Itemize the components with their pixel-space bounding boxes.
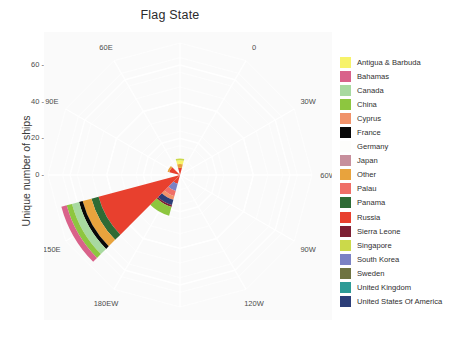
theta-tick-label: 90W: [300, 245, 315, 254]
polar-bar-segment[interactable]: [177, 164, 183, 168]
legend-item[interactable]: United Kingdom: [340, 281, 464, 295]
legend-label: Russia: [357, 212, 380, 223]
legend-label: Canada: [357, 85, 384, 96]
legend-swatch-icon: [340, 155, 351, 166]
theta-tick-label: 60W: [320, 171, 332, 180]
page-title: Flag State: [0, 8, 340, 22]
legend-swatch-icon: [340, 183, 351, 194]
legend-item[interactable]: Panama: [340, 196, 464, 210]
y-tick-label: 0 -: [10, 170, 44, 179]
y-axis: 0 -20 -40 -60 -: [0, 0, 44, 339]
legend-label: United Kingdom: [357, 282, 411, 293]
legend-swatch-icon: [340, 268, 351, 279]
grid-spoke: [180, 175, 246, 289]
legend-item[interactable]: Antigua & Barbuda: [340, 55, 464, 69]
legend-label: Germany: [357, 141, 388, 152]
theta-tick-label: 150E: [44, 245, 61, 254]
legend-label: South Korea: [357, 254, 399, 265]
legend-label: France: [357, 127, 381, 138]
legend-label: China: [357, 99, 377, 110]
legend-item[interactable]: South Korea: [340, 252, 464, 266]
legend-item[interactable]: United States Of America: [340, 295, 464, 309]
legend-swatch-icon: [340, 99, 351, 110]
chart-figure: Flag State Unique number of ships 0 -20 …: [0, 0, 464, 339]
legend-swatch-icon: [340, 226, 351, 237]
legend-label: Japan: [357, 155, 378, 166]
legend-label: Panama: [357, 197, 385, 208]
legend-label: Singapore: [357, 240, 392, 251]
theta-tick-label: 150W: [170, 319, 190, 321]
legend-item[interactable]: Canada: [340, 83, 464, 97]
grid-spoke: [114, 61, 180, 175]
grid-spoke: [180, 175, 294, 241]
legend-item[interactable]: Other: [340, 168, 464, 182]
legend-item[interactable]: Germany: [340, 140, 464, 154]
legend-swatch-icon: [340, 254, 351, 265]
legend-label: Antigua & Barbuda: [357, 57, 421, 68]
legend-swatch-icon: [340, 240, 351, 251]
legend-label: Sweden: [357, 268, 384, 279]
legend-swatch-icon: [340, 197, 351, 208]
legend-label: United States Of America: [357, 296, 442, 307]
legend-item[interactable]: China: [340, 97, 464, 111]
polar-bar-segment[interactable]: [176, 160, 184, 164]
legend-item[interactable]: Russia: [340, 210, 464, 224]
legend-label: Sierra Leone: [357, 226, 400, 237]
legend-item[interactable]: Sweden: [340, 266, 464, 280]
legend-label: Cyprus: [357, 113, 381, 124]
legend-swatch-icon: [340, 113, 351, 124]
legend-label: Other: [357, 169, 376, 180]
theta-tick-label: 60E: [99, 42, 112, 51]
y-tick-label: 60 -: [10, 60, 44, 69]
legend-swatch-icon: [340, 85, 351, 96]
legend-item[interactable]: Singapore: [340, 238, 464, 252]
legend-label: Palau: [357, 183, 376, 194]
legend-item[interactable]: Cyprus: [340, 111, 464, 125]
legend-item[interactable]: France: [340, 125, 464, 139]
legend-swatch-icon: [340, 169, 351, 180]
y-tick-label: 20 -: [10, 133, 44, 142]
grid-spoke: [66, 109, 180, 175]
polar-plot-panel: 030W60W90W120W150W180EW150E120E90E60E30E: [44, 32, 332, 320]
legend-swatch-icon: [340, 127, 351, 138]
legend-item[interactable]: Palau: [340, 182, 464, 196]
theta-tick-label: 120W: [244, 299, 264, 308]
legend-item[interactable]: Bahamas: [340, 69, 464, 83]
legend-swatch-icon: [340, 141, 351, 152]
legend-item[interactable]: Japan: [340, 154, 464, 168]
legend-swatch-icon: [340, 57, 351, 68]
legend: Antigua & BarbudaBahamasCanadaChinaCypru…: [340, 55, 464, 309]
polar-plot-svg: [44, 32, 332, 320]
theta-tick-label: 30W: [300, 97, 315, 106]
legend-swatch-icon: [340, 296, 351, 307]
theta-tick-label: 0: [252, 42, 256, 51]
legend-swatch-icon: [340, 71, 351, 82]
grid-spoke: [180, 109, 294, 175]
theta-tick-label: 90E: [45, 97, 58, 106]
grid-spoke: [180, 61, 246, 175]
legend-item[interactable]: Sierra Leone: [340, 224, 464, 238]
theta-tick-label: 180EW: [94, 299, 119, 308]
y-tick-label: 40 -: [10, 97, 44, 106]
legend-label: Bahamas: [357, 71, 389, 82]
legend-swatch-icon: [340, 212, 351, 223]
legend-swatch-icon: [340, 282, 351, 293]
